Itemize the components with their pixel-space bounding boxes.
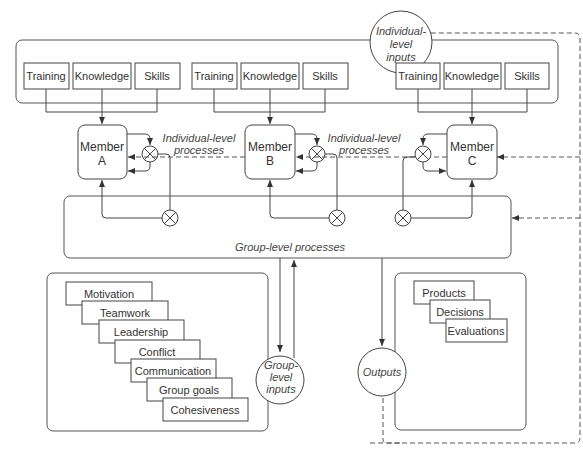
group-inputs-label-2: level (270, 371, 293, 383)
individual-inputs-label-3: inputs (386, 51, 416, 63)
group-goals-label: Group goals (159, 384, 219, 396)
member-b-inputs: Training Knowledge Skills (192, 63, 348, 124)
training-label: Training (194, 70, 233, 82)
member-b-junction (295, 134, 337, 218)
individual-inputs-label-1: Individual- (376, 25, 426, 37)
evaluations-label: Evaluations (448, 325, 505, 337)
decisions-label: Decisions (436, 306, 484, 318)
member-c-junction (403, 134, 447, 218)
outputs-stack: Products Decisions Evaluations (414, 281, 507, 342)
skills-label: Skills (312, 70, 338, 82)
individual-processes-label: Individual-level (328, 132, 401, 144)
member-c-label: Member (450, 140, 494, 154)
motivation-label: Motivation (84, 288, 134, 300)
member-a-letter: A (98, 154, 106, 168)
group-inputs-label-1: Group- (264, 359, 299, 371)
training-label: Training (398, 70, 437, 82)
products-label: Products (422, 287, 466, 299)
group-processes-label: Group-level processes (235, 241, 346, 253)
skills-label: Skills (144, 70, 170, 82)
leadership-label: Leadership (114, 326, 168, 338)
individual-processes-label-2: processes (173, 144, 225, 156)
individual-inputs-label-2: level (390, 38, 413, 50)
individual-processes-label: Individual-level (163, 132, 236, 144)
knowledge-label: Knowledge (75, 70, 129, 82)
member-a-inputs: Training Knowledge Skills (24, 63, 180, 124)
training-label: Training (26, 70, 65, 82)
outputs-label: Outputs (363, 366, 402, 378)
teamwork-label: Teamwork (100, 307, 151, 319)
cohesiveness-label: Cohesiveness (170, 404, 240, 416)
member-c-letter: C (468, 154, 477, 168)
outputs-to-feedback-dashed (383, 398, 400, 443)
skills-label: Skills (514, 70, 540, 82)
member-a-label: Member (80, 140, 124, 154)
communication-label: Communication (135, 365, 211, 377)
member-b-letter: B (266, 154, 274, 168)
group-junction-b (270, 180, 345, 226)
team-process-diagram: Individual- level inputs Training Knowle… (0, 0, 583, 453)
conflict-label: Conflict (139, 346, 176, 358)
group-junction-c (395, 180, 472, 226)
member-b-label: Member (248, 140, 292, 154)
member-a-junction (127, 134, 170, 218)
group-inputs-label-3: inputs (266, 383, 296, 395)
knowledge-label: Knowledge (445, 70, 499, 82)
group-junction-a (102, 180, 178, 226)
individual-processes-label-2: processes (338, 144, 390, 156)
knowledge-label: Knowledge (243, 70, 297, 82)
group-inputs-stack: Motivation Teamwork Leadership Conflict … (66, 282, 248, 421)
member-c-inputs: Training Knowledge Skills (396, 63, 549, 124)
